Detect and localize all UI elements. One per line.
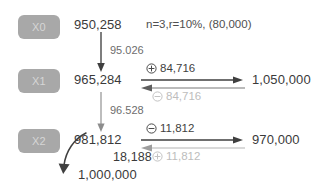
row-x1-target-value: 1,050,000 [252, 72, 311, 87]
plus-circle-icon [152, 151, 163, 162]
step-value-x1: 965,284 [74, 72, 122, 87]
down-arrow-x0-x1-icon [95, 32, 109, 74]
row-x2-back-op: 11,812 [152, 150, 200, 162]
minus-circle-icon [152, 91, 163, 102]
row-x2-forward-amount: 11,812 [160, 122, 194, 134]
row-x1-forward-op: 84,716 [146, 62, 195, 74]
step-value-x0: 950,258 [74, 17, 122, 32]
row-x1-forward-amount: 84,716 [160, 62, 195, 74]
row-x2-back-amount: 11,812 [166, 150, 200, 162]
row-x2-target-value: 970,000 [252, 132, 300, 147]
row-x1-back-amount: 84,716 [166, 90, 201, 102]
amortization-diagram: X0 950,258 n=3,r=10%, (80,000) 95.026 X1… [0, 0, 325, 191]
row-x2-forward-op: 11,812 [146, 122, 194, 134]
down-arrow-x1-x2-icon [95, 92, 109, 134]
minus-circle-icon [146, 123, 157, 134]
delta-x1-x2: 96.528 [110, 104, 144, 116]
row-x1-back-op: 84,716 [152, 90, 201, 102]
plus-circle-icon [146, 63, 157, 74]
final-value: 1,000,000 [78, 167, 137, 182]
step-badge-x1: X1 [18, 69, 60, 93]
delta-x0-x1: 95.026 [110, 44, 144, 56]
parameters-note: n=3,r=10%, (80,000) [146, 18, 252, 30]
final-delta: 18,188 [113, 150, 152, 164]
step-badge-x0: X0 [18, 15, 60, 39]
step-badge-x2: X2 [18, 129, 60, 153]
